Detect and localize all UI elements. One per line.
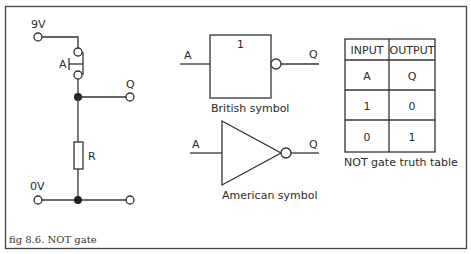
supply-label: 9V [31, 18, 46, 31]
cell-r0-c1: Q [408, 70, 417, 83]
british-not-symbol: A 1 Q British symbol [180, 35, 319, 115]
supply-terminal [34, 33, 42, 41]
ground-label: 0V [30, 180, 45, 193]
switch-circuit: 9V A Q R 0V [30, 18, 135, 204]
switch-contact-top [74, 48, 82, 56]
truth-table: INPUT OUTPUT A Q 1 0 0 1 NOT gate truth … [344, 39, 458, 169]
header-output: OUTPUT [390, 44, 435, 57]
junction-dot-bottom [74, 196, 82, 204]
figure-caption: fig 8.6. NOT gate [9, 234, 97, 245]
british-output-label: Q [309, 48, 318, 61]
american-input-label: A [192, 138, 200, 151]
cell-r0-c0: A [363, 70, 371, 83]
cell-r2-c1: 1 [409, 131, 416, 144]
output-label: Q [126, 78, 135, 91]
british-symbol-caption: British symbol [211, 102, 289, 115]
output-terminal [126, 93, 134, 101]
switch-label: A [59, 58, 67, 71]
ground-terminal-left [34, 196, 42, 204]
switch-contact-bottom [74, 71, 82, 79]
american-gate-triangle [222, 121, 281, 185]
american-output-label: Q [309, 138, 318, 151]
resistor [74, 142, 83, 169]
british-input-label: A [184, 49, 192, 62]
american-inversion-bubble [281, 148, 291, 158]
supply-wire [42, 37, 78, 48]
not-gate-figure: 9V A Q R 0V A 1 Q British sy [0, 0, 471, 254]
resistor-label: R [88, 150, 96, 163]
header-input: INPUT [351, 44, 384, 57]
truth-table-caption: NOT gate truth table [344, 156, 458, 169]
american-symbol-caption: American symbol [222, 189, 318, 202]
cell-r2-c0: 0 [364, 131, 371, 144]
british-gate-text: 1 [237, 38, 244, 51]
american-not-symbol: A Q American symbol [190, 121, 319, 202]
cell-r1-c1: 0 [409, 100, 416, 113]
ground-terminal-right [126, 196, 134, 204]
british-inversion-bubble [271, 59, 281, 69]
cell-r1-c0: 1 [364, 100, 371, 113]
